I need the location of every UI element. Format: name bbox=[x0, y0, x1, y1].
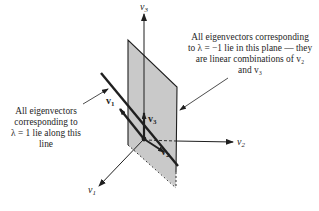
plane-caption-line: and v₃ bbox=[186, 65, 314, 76]
plane-caption: All eigenvectors corresponding to λ = −1… bbox=[186, 32, 314, 76]
plane-caption-line: are linear combinations of v₂ bbox=[186, 54, 314, 65]
line-caption: All eigenvectors corresponding to λ = 1 … bbox=[4, 106, 88, 150]
plane-caption-line: to λ = −1 lie in this plane — they bbox=[186, 43, 314, 54]
v1-axis-label: v1 bbox=[88, 184, 96, 197]
line-caption-line: line bbox=[4, 139, 88, 150]
line-caption-line: corresponding to bbox=[4, 117, 88, 128]
line-caption-line: λ = 1 lie along this bbox=[4, 128, 88, 139]
plane-caption-line: All eigenvectors corresponding bbox=[186, 32, 314, 43]
v1-vector-label: v1 bbox=[106, 95, 115, 108]
origin-point bbox=[142, 137, 147, 142]
v1-axis bbox=[99, 139, 144, 186]
line-caption-line: All eigenvectors bbox=[4, 106, 88, 117]
plane-callout-arrow bbox=[180, 78, 228, 110]
line-callout-arrow bbox=[83, 89, 108, 104]
v2-axis-label: v2 bbox=[237, 136, 245, 149]
v3-axis-label: v3 bbox=[140, 1, 148, 14]
